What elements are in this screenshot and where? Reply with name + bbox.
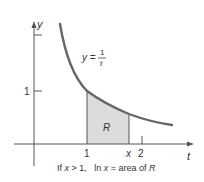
x-axis-label: t: [187, 150, 191, 162]
curve-label-denominator: t: [100, 59, 103, 68]
y-axis-label: y: [36, 18, 44, 30]
caption-part-1: If: [57, 163, 65, 173]
region-label-r: R: [103, 122, 110, 133]
y-tick-label-1: 1: [24, 86, 30, 97]
shaded-region-r: [87, 91, 129, 144]
caption: If x > 1, ln x = area of R: [57, 163, 156, 173]
caption-part-3: = area of: [108, 163, 149, 173]
caption-part-2: > 1, ln: [69, 163, 104, 173]
x-axis-arrow-icon: [187, 142, 194, 147]
x-tick-label-x: x: [125, 148, 132, 159]
curve-label-lhs: y =: [81, 52, 96, 63]
curve-label-numerator: 1: [100, 48, 105, 57]
y-axis-arrow-icon: [32, 21, 37, 28]
caption-var-r: R: [149, 163, 156, 173]
chart: y t 1 1 x 2 y = 1 t R If x > 1, ln x = a…: [0, 0, 204, 182]
x-tick-label-2: 2: [138, 148, 144, 159]
x-tick-label-1: 1: [84, 148, 90, 159]
